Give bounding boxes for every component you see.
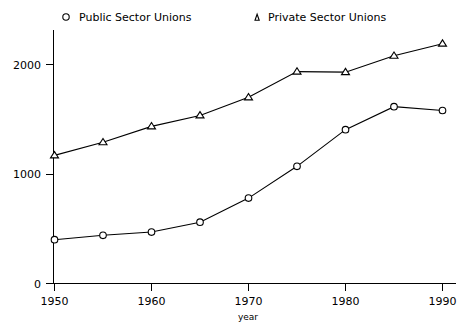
series-line — [55, 107, 443, 240]
x-axis-title: year — [238, 312, 258, 322]
series-public-sector — [51, 103, 446, 243]
legend-entry-private-sector: Private Sector Unions — [255, 11, 386, 24]
chart-canvas: Public Sector Unions Private Sector Unio… — [0, 0, 461, 336]
series-private-sector — [51, 40, 447, 158]
x-tick-label-1970: 1970 — [235, 295, 263, 308]
data-point-triangle-marker-icon — [293, 68, 301, 74]
data-point-circle-marker-icon — [294, 163, 301, 170]
x-tick-label-1990: 1990 — [429, 295, 457, 308]
y-tick-label-1000: 1000 — [13, 168, 41, 181]
y-tick-label-2000: 2000 — [13, 59, 41, 72]
y-tick-label-0: 0 — [34, 278, 41, 291]
x-axis-ticks: 1950 1960 1970 1980 1990 — [41, 284, 457, 309]
series-layer — [51, 40, 447, 243]
data-point-triangle-marker-icon — [439, 40, 447, 46]
data-point-circle-marker-icon — [51, 236, 58, 243]
y-axis-ticks: 0 1000 2000 — [13, 59, 54, 291]
data-point-circle-marker-icon — [197, 219, 204, 226]
x-tick-label-1980: 1980 — [332, 295, 360, 308]
data-point-circle-marker-icon — [245, 195, 252, 202]
data-point-circle-marker-icon — [391, 103, 398, 110]
legend-label-public-sector: Public Sector Unions — [79, 11, 192, 24]
legend-entry-public-sector: Public Sector Unions — [63, 11, 192, 24]
data-point-triangle-marker-icon — [245, 94, 253, 100]
data-point-circle-marker-icon — [148, 229, 155, 236]
union-membership-line-chart: Public Sector Unions Private Sector Unio… — [0, 0, 461, 336]
data-point-circle-marker-icon — [100, 232, 107, 239]
triangle-marker-icon — [255, 14, 259, 20]
chart-axes — [54, 30, 457, 284]
chart-legend: Public Sector Unions Private Sector Unio… — [63, 11, 387, 24]
x-tick-label-1960: 1960 — [138, 295, 166, 308]
legend-label-private-sector: Private Sector Unions — [268, 11, 386, 24]
data-point-circle-marker-icon — [439, 107, 446, 114]
circle-marker-icon — [63, 14, 69, 20]
data-point-circle-marker-icon — [342, 126, 349, 133]
x-tick-label-1950: 1950 — [41, 295, 69, 308]
